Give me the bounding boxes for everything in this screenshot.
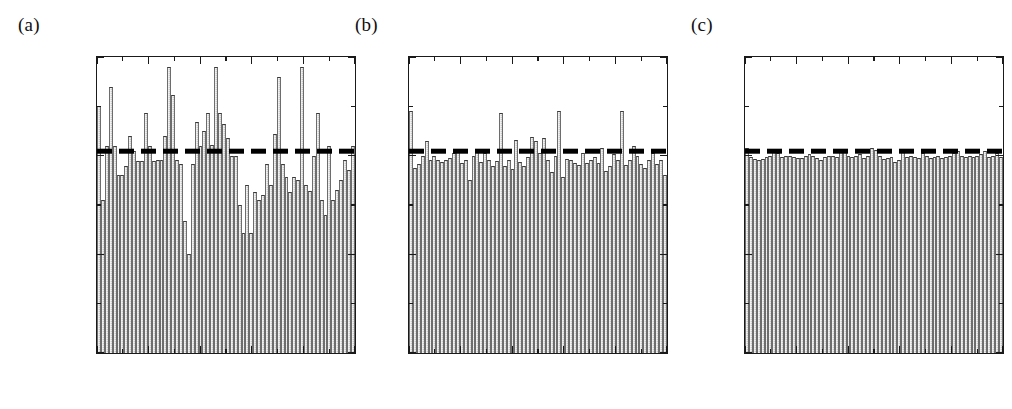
y-axis-tick (660, 254, 667, 255)
x-axis-minor-tick (329, 349, 330, 353)
x-axis-minor-tick (225, 349, 226, 353)
x-axis-tick (408, 346, 409, 353)
x-axis-minor-tick (329, 57, 330, 61)
x-axis-tick (796, 57, 797, 64)
x-axis-tick (148, 346, 149, 353)
x-axis-minor-tick (122, 57, 123, 61)
x-axis-tick (148, 57, 149, 64)
panel-label-c: (c) (691, 14, 713, 36)
y-axis-minor-tick (663, 303, 667, 304)
x-axis-tick (615, 57, 616, 64)
x-axis-minor-tick (434, 57, 435, 61)
y-axis-tick (409, 254, 416, 255)
x-axis-minor-tick (486, 57, 487, 61)
x-axis-minor-tick (174, 349, 175, 353)
y-axis-tick (409, 155, 416, 156)
x-axis-minor-tick (770, 57, 771, 61)
panel-label-a: (a) (18, 14, 40, 36)
y-axis-minor-tick (97, 204, 101, 205)
x-axis-minor-tick (174, 57, 175, 61)
y-axis-minor-tick (409, 303, 413, 304)
x-axis-minor-tick (641, 349, 642, 353)
y-axis-minor-tick (999, 106, 1003, 107)
x-axis-minor-tick (122, 349, 123, 353)
x-axis-minor-tick (486, 349, 487, 353)
x-axis-tick (1002, 346, 1003, 353)
x-axis-tick (303, 346, 304, 353)
x-axis-minor-tick (822, 349, 823, 353)
x-axis-tick (796, 346, 797, 353)
y-axis-minor-tick (745, 204, 749, 205)
x-axis-minor-tick (589, 57, 590, 61)
x-axis-tick (1002, 57, 1003, 64)
x-axis-minor-tick (977, 349, 978, 353)
x-axis-minor-tick (925, 349, 926, 353)
panel-label-b: (b) (355, 14, 378, 36)
y-axis-minor-tick (999, 204, 1003, 205)
y-axis-tick (745, 352, 752, 353)
x-axis-minor-tick (873, 349, 874, 353)
x-axis-tick (666, 346, 667, 353)
y-axis-tick (996, 155, 1003, 156)
y-axis-tick (97, 254, 104, 255)
plot-area-c: x 0.000.010.020.0300.20.40.60.81 (744, 56, 1004, 354)
x-axis-tick (460, 346, 461, 353)
x-axis-minor-tick (925, 57, 926, 61)
x-axis-minor-tick (770, 349, 771, 353)
y-axis-tick (745, 56, 752, 57)
y-axis-tick (97, 56, 104, 57)
y-axis-minor-tick (999, 303, 1003, 304)
y-axis-tick (97, 155, 104, 156)
y-axis-minor-tick (663, 106, 667, 107)
x-axis-minor-tick (822, 57, 823, 61)
y-axis-minor-tick (97, 106, 101, 107)
y-axis-tick (745, 155, 752, 156)
x-axis-tick (615, 346, 616, 353)
x-axis-tick (512, 57, 513, 64)
x-axis-tick (848, 346, 849, 353)
x-axis-tick (408, 57, 409, 64)
panel-b: (b) x 0.000.010.020.0300.20.40.60.81 (337, 0, 674, 409)
x-axis-tick (96, 346, 97, 353)
x-axis-tick (951, 57, 952, 64)
y-axis-tick (745, 254, 752, 255)
histogram-bars-b (409, 57, 667, 353)
panel-a: (a) p(x) x 0.000.010.020.0300.20.40.60.8… (0, 0, 337, 409)
x-axis-minor-tick (225, 57, 226, 61)
y-axis-tick (409, 352, 416, 353)
histogram-bar (663, 175, 667, 353)
plot-area-a: p(x) x 0.000.010.020.0300.20.40.60.81 (96, 56, 356, 354)
x-axis-minor-tick (641, 57, 642, 61)
panel-c: (c) x 0.000.010.020.0300.20.40.60.81 (673, 0, 1010, 409)
x-axis-minor-tick (537, 349, 538, 353)
y-axis-minor-tick (409, 106, 413, 107)
x-axis-minor-tick (277, 349, 278, 353)
x-axis-tick (563, 346, 564, 353)
x-axis-tick (251, 346, 252, 353)
x-axis-tick (96, 57, 97, 64)
figure-three-histogram-panels: (a) p(x) x 0.000.010.020.0300.20.40.60.8… (0, 0, 1012, 409)
x-axis-tick (563, 57, 564, 64)
x-axis-tick (200, 346, 201, 353)
x-axis-tick (200, 57, 201, 64)
x-axis-tick (899, 57, 900, 64)
y-axis-tick (660, 155, 667, 156)
x-axis-minor-tick (434, 349, 435, 353)
x-axis-minor-tick (537, 57, 538, 61)
x-axis-tick (951, 346, 952, 353)
x-axis-minor-tick (873, 57, 874, 61)
histogram-bars-c (745, 57, 1003, 353)
y-axis-minor-tick (745, 303, 749, 304)
x-axis-tick (303, 57, 304, 64)
y-axis-tick (409, 56, 416, 57)
y-axis-minor-tick (409, 204, 413, 205)
y-axis-tick (996, 254, 1003, 255)
histogram-bars-a (97, 57, 355, 353)
x-axis-tick (848, 57, 849, 64)
y-axis-minor-tick (745, 106, 749, 107)
x-axis-tick (899, 346, 900, 353)
x-axis-tick (251, 57, 252, 64)
x-axis-tick (460, 57, 461, 64)
x-axis-minor-tick (277, 57, 278, 61)
plot-area-b: x 0.000.010.020.0300.20.40.60.81 (408, 56, 668, 354)
